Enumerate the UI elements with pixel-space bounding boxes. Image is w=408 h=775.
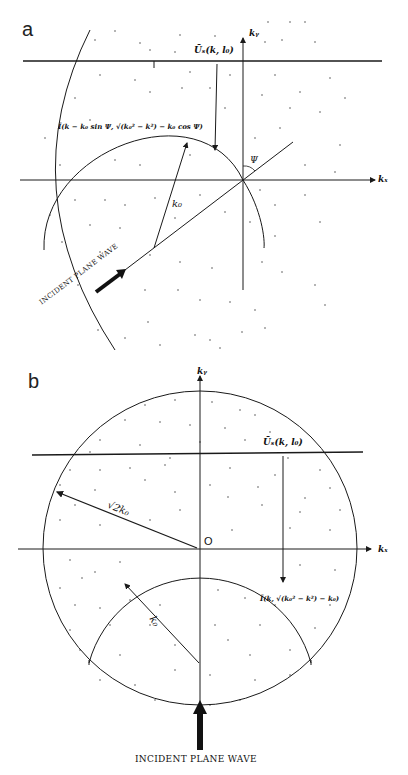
panel-a-label: a — [22, 18, 33, 41]
panel-a-angle-label: Ψ — [250, 155, 258, 165]
panel-a-k0-arrow — [154, 143, 187, 248]
panel-a-dots — [44, 21, 346, 349]
panel-b-kx-label: kₓ — [378, 544, 388, 554]
panel-a-k0-label: k₀ — [172, 198, 182, 209]
panel-a-ky-label: kᵧ — [249, 28, 259, 38]
panel-b-incident-label: INCIDENT PLANE WAVE — [135, 754, 257, 764]
panel-b-ky-label: kᵧ — [197, 366, 207, 376]
panel-a-angle-arc — [243, 166, 255, 171]
panel-a-outer-arc — [55, 30, 115, 350]
panel-b-k0-arrow — [125, 584, 199, 663]
panel-b-sqrt2k0-arrow — [57, 492, 197, 548]
panel-b-origin-label: O — [204, 535, 213, 547]
panel-a-incident-arrow — [96, 274, 120, 292]
panel-a — [20, 21, 382, 350]
panel-a-ewald-label: Ĩ(k − k₀ sin Ψ, √(k₀² − k²) − k₀ cos Ψ) — [58, 122, 203, 131]
diagram-canvas — [0, 0, 408, 775]
panel-b-label: b — [28, 370, 39, 393]
panel-b-ewald-label: Ĩ(k, √(k₀² − k²) − k₀) — [260, 594, 339, 603]
panel-b-field-line — [32, 452, 363, 455]
panel-b — [18, 376, 371, 750]
panel-a-kx-label: kₓ — [378, 174, 388, 184]
panel-a-field-label: Ũₛ(k, l₀) — [194, 45, 234, 55]
panel-b-field-label: Ũₛ(k, l₀) — [263, 437, 303, 447]
panel-a-incident-line — [125, 142, 293, 270]
panel-b-incident-arrow — [197, 712, 203, 750]
panel-a-ewald-arc — [44, 136, 264, 250]
panel-a-projection-arrow — [215, 64, 217, 150]
